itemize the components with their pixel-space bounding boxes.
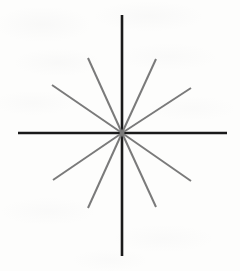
spoke-group [18,15,227,256]
radial-star-figure: Radial star figure Twelve-spoke radial s… [0,0,240,271]
star-canvas: Radial star figure Twelve-spoke radial s… [0,0,240,271]
